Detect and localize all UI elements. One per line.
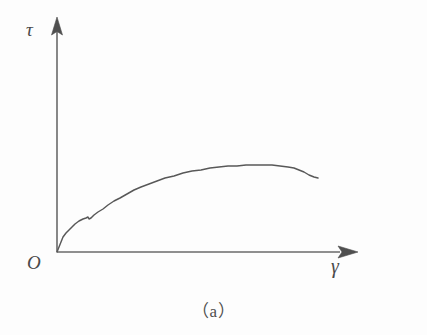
origin-label: O	[27, 253, 41, 272]
y-axis-label-tau: τ	[26, 20, 33, 39]
stress-strain-plot	[0, 0, 427, 335]
stress-strain-curve	[57, 165, 318, 252]
x-axis-label-gamma: γ	[331, 256, 339, 276]
figure-container: τ γ O （a）	[0, 0, 427, 335]
x-axis-arrowhead-icon	[338, 246, 358, 258]
figure-caption: （a）	[0, 297, 427, 322]
